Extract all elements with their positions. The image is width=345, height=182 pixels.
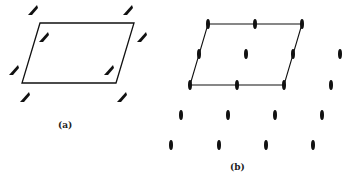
twofold-axis-icon xyxy=(197,49,201,59)
motif-triangle-icon xyxy=(28,5,38,15)
twofold-axis-icon xyxy=(291,49,295,59)
twofold-axis-icon xyxy=(253,19,257,29)
unit-cell-outline xyxy=(22,23,134,83)
motif-triangle-icon xyxy=(123,5,133,15)
twofold-axis-icon xyxy=(188,80,192,90)
motif-triangle-icon xyxy=(39,32,49,42)
twofold-axis-icon xyxy=(226,110,230,120)
figure-b-lattice xyxy=(169,19,342,150)
diagram-canvas xyxy=(0,0,345,182)
twofold-axis-icon xyxy=(264,140,268,150)
twofold-axis-icon xyxy=(244,49,248,59)
twofold-axis-icon xyxy=(235,80,239,90)
twofold-axis-icon xyxy=(179,110,183,120)
twofold-axis-icon xyxy=(320,110,324,120)
motif-triangle-icon xyxy=(104,65,114,75)
figure-a-label: (a) xyxy=(58,120,72,130)
figure-b-label: (b) xyxy=(230,162,245,172)
twofold-axis-icon xyxy=(217,140,221,150)
twofold-axis-icon xyxy=(338,49,342,59)
twofold-axis-icon xyxy=(329,80,333,90)
twofold-axis-icon xyxy=(169,140,173,150)
figure-a-lattice xyxy=(9,5,147,102)
motif-triangle-icon xyxy=(117,92,127,102)
twofold-axis-icon xyxy=(300,19,304,29)
twofold-axis-icon xyxy=(273,110,277,120)
twofold-axis-icon xyxy=(282,80,286,90)
motif-triangle-icon xyxy=(20,92,30,102)
motif-triangle-icon xyxy=(9,65,19,75)
twofold-axis-icon xyxy=(206,19,210,29)
twofold-axis-icon xyxy=(311,140,315,150)
motif-triangle-icon xyxy=(137,32,147,42)
